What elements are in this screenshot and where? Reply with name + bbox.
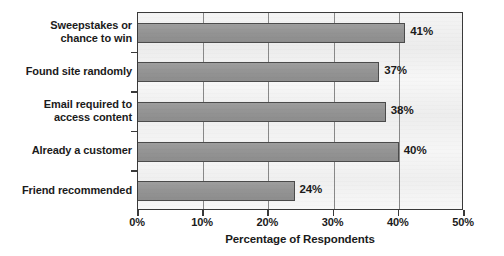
x-tick-label-50: 50% (452, 216, 474, 228)
data-label-2: 38% (391, 104, 414, 116)
bar-1 (138, 62, 379, 82)
bar-chart: Sweepstakes or chance to winFound site r… (0, 0, 504, 256)
category-label-1: Found site randomly (26, 65, 132, 78)
x-axis-title: Percentage of Respondents (137, 233, 463, 245)
y-tick-4 (131, 170, 137, 172)
category-label-3: Already a customer (32, 144, 132, 157)
bar-4 (138, 181, 295, 201)
bar-3 (138, 142, 399, 162)
data-label-3: 40% (404, 144, 427, 156)
bar-0 (138, 23, 405, 43)
category-label-2: Email required to access content (44, 98, 132, 124)
category-label-4: Friend recommended (22, 184, 132, 197)
x-tick-label-0: 0% (129, 216, 145, 228)
data-label-0: 41% (410, 25, 433, 37)
data-label-4: 24% (300, 183, 323, 195)
plot-area (137, 12, 463, 210)
bar-2 (138, 102, 386, 122)
y-tick-1 (131, 52, 137, 54)
x-tick-label-20: 20% (257, 216, 279, 228)
x-tick-label-30: 30% (322, 216, 344, 228)
data-label-1: 37% (384, 64, 407, 76)
x-tick-label-10: 10% (191, 216, 213, 228)
y-tick-2 (131, 91, 137, 93)
x-tick-label-40: 40% (387, 216, 409, 228)
y-tick-3 (131, 131, 137, 133)
category-label-0: Sweepstakes or chance to win (50, 19, 132, 45)
